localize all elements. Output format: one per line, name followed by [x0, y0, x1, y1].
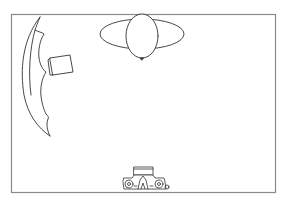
- softbox-icon: [48, 55, 73, 75]
- camera-icon: [123, 167, 169, 189]
- balloon-icon: [126, 14, 158, 60]
- lighting-diagram: [0, 0, 287, 205]
- reflector-icon: [22, 17, 50, 136]
